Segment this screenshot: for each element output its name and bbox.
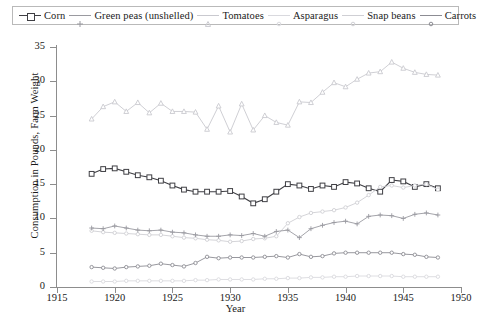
- data-point: [343, 180, 348, 185]
- data-point: [298, 276, 301, 279]
- data-point: [101, 104, 106, 109]
- data-point: [275, 254, 278, 257]
- data-point: [251, 201, 256, 206]
- data-point: [125, 265, 128, 268]
- data-point: [228, 278, 231, 281]
- data-point: [182, 230, 187, 235]
- data-point: [240, 256, 243, 259]
- series-asparagus: [90, 274, 440, 283]
- data-point: [90, 280, 93, 283]
- data-point: [309, 276, 312, 279]
- data-point: [355, 181, 360, 186]
- data-point: [436, 73, 441, 78]
- data-point: [159, 279, 162, 282]
- data-point: [332, 252, 335, 255]
- data-point: [274, 120, 279, 125]
- data-point: [205, 278, 208, 281]
- data-point: [355, 274, 358, 277]
- data-point: [274, 229, 279, 234]
- data-point: [112, 166, 117, 171]
- data-point: [239, 233, 244, 238]
- data-point: [390, 274, 393, 277]
- data-point: [309, 187, 314, 192]
- data-point: [125, 232, 128, 235]
- series-carrots: [90, 251, 440, 270]
- data-point: [240, 239, 243, 242]
- data-point: [332, 80, 337, 85]
- data-point: [286, 222, 289, 225]
- data-point: [378, 213, 383, 218]
- data-point: [343, 219, 348, 224]
- data-point: [412, 70, 417, 75]
- data-point: [182, 265, 185, 268]
- data-point: [390, 251, 393, 254]
- series-tomatoes: [89, 59, 440, 134]
- data-point: [171, 279, 174, 282]
- data-point: [262, 197, 267, 202]
- data-point: [379, 251, 382, 254]
- data-point: [286, 256, 289, 259]
- data-point: [344, 275, 347, 278]
- data-point: [321, 254, 324, 257]
- data-point: [216, 234, 221, 239]
- data-point: [379, 185, 382, 188]
- data-point: [193, 110, 198, 115]
- data-point: [436, 188, 439, 191]
- data-point: [148, 233, 151, 236]
- data-point: [367, 193, 370, 196]
- data-point: [412, 212, 417, 217]
- data-point: [309, 255, 312, 258]
- data-point: [425, 275, 428, 278]
- data-point: [170, 183, 175, 188]
- data-point: [147, 175, 152, 180]
- data-point: [355, 201, 358, 204]
- data-point: [113, 267, 116, 270]
- data-point: [297, 99, 302, 104]
- data-point: [436, 256, 439, 259]
- data-point: [355, 251, 358, 254]
- data-point: [216, 189, 221, 194]
- data-point: [193, 189, 198, 194]
- data-point: [332, 220, 337, 225]
- data-point: [182, 109, 187, 114]
- data-point: [378, 189, 383, 194]
- data-point: [228, 129, 233, 134]
- data-point: [113, 280, 116, 283]
- data-point: [125, 279, 128, 282]
- data-point: [240, 278, 243, 281]
- data-point: [275, 235, 278, 238]
- data-point: [379, 274, 382, 277]
- data-point: [332, 184, 337, 189]
- data-point: [158, 178, 163, 183]
- series-line: [92, 62, 438, 132]
- data-point: [424, 211, 429, 216]
- data-point: [425, 182, 428, 185]
- data-point: [413, 184, 416, 187]
- data-point: [228, 256, 231, 259]
- data-point: [170, 230, 175, 235]
- data-point: [135, 228, 140, 233]
- data-point: [413, 253, 416, 256]
- data-point: [424, 72, 429, 77]
- data-point: [390, 184, 393, 187]
- data-point: [216, 103, 221, 108]
- data-point: [101, 266, 104, 269]
- data-point: [425, 255, 428, 258]
- data-point: [193, 232, 198, 237]
- data-point: [205, 255, 208, 258]
- data-point: [309, 211, 312, 214]
- data-point: [136, 233, 139, 236]
- data-point: [332, 209, 335, 212]
- data-point: [262, 113, 267, 118]
- data-point: [263, 255, 266, 258]
- data-point: [148, 279, 151, 282]
- data-point: [389, 213, 394, 218]
- data-point: [90, 265, 93, 268]
- data-point: [112, 224, 117, 229]
- data-point: [286, 276, 289, 279]
- data-point: [101, 226, 106, 231]
- data-point: [366, 70, 371, 75]
- data-point: [344, 206, 347, 209]
